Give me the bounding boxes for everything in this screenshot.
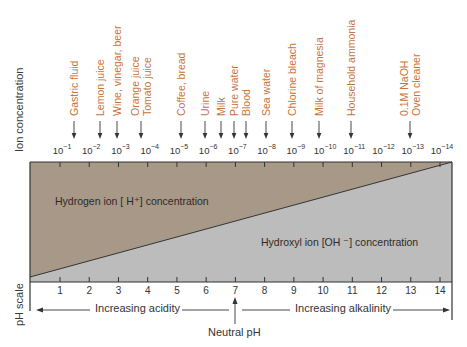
concentration-tick-label: 10−1 <box>53 143 72 156</box>
exponent: −14 <box>441 143 453 150</box>
concentration-tick-label: 10−2 <box>82 143 101 156</box>
substance-label: Wine, vinegar, beer <box>111 26 123 116</box>
ion-concentration-axis-label: Ion concentration <box>13 68 25 152</box>
ph-tick-label: 12 <box>376 285 387 296</box>
exponent: −2 <box>93 143 101 150</box>
exponent: −5 <box>180 143 188 150</box>
substance-label: Sea water <box>260 69 272 116</box>
concentration-tick-label: 10−8 <box>257 143 276 156</box>
substance-label: Gastric fluid <box>68 61 80 116</box>
exponent: −3 <box>122 143 130 150</box>
ph-tick-label: 1 <box>57 285 63 296</box>
exponent: −7 <box>239 143 247 150</box>
ph-tick-label: 5 <box>174 285 180 296</box>
substance-label-line: Gastric fluid <box>68 61 80 116</box>
concentration-tick-label: 10−12 <box>372 143 394 156</box>
increasing-alkalinity-label: Increasing alkalinity <box>293 302 393 314</box>
substance-label: Orange juiceTomato juice <box>129 56 153 116</box>
substance-label-line: Blood <box>240 89 252 116</box>
concentration-tick-label: 10−9 <box>287 143 306 156</box>
ph-tick-label: 10 <box>318 285 329 296</box>
exponent: −13 <box>412 143 424 150</box>
exponent: −6 <box>209 143 217 150</box>
substance-label: Coffee, bread <box>175 53 187 116</box>
concentration-tick-label: 10−10 <box>314 143 336 156</box>
substance-label-line: Milk <box>215 97 227 116</box>
ph-tick-label: 3 <box>116 285 122 296</box>
exponent: −12 <box>383 143 395 150</box>
substance-label-line: Chlorine bleach <box>286 43 298 116</box>
exponent: −1 <box>63 143 71 150</box>
substance-label: Pure water <box>228 65 240 116</box>
ph-tick-label: 2 <box>86 285 92 296</box>
substance-label-line: Oven cleaner <box>410 54 422 116</box>
ph-tick-label: 9 <box>291 285 297 296</box>
substance-label-line: Urine <box>199 91 211 116</box>
hydroxyl-ion-label: Hydroxyl ion [OH ⁻] concentration <box>261 236 418 248</box>
substance-label: Milk <box>215 97 227 116</box>
exponent: −11 <box>354 143 365 150</box>
hydrogen-ion-label: Hydrogen ion [ H⁺] concentration <box>55 195 209 207</box>
ph-tick-label: 13 <box>405 285 416 296</box>
ph-scale-axis-label: pH scale <box>13 283 25 326</box>
concentration-tick-label: 10−7 <box>228 143 247 156</box>
substance-label-line: Milk of magnesia <box>313 37 325 116</box>
substance-label-line: Sea water <box>260 69 272 116</box>
substance-label: Blood <box>240 89 252 116</box>
substance-label-line: Household ammonia <box>345 20 357 116</box>
exponent: −9 <box>297 143 305 150</box>
substance-label-line: Pure water <box>228 65 240 116</box>
substance-label: Milk of magnesia <box>313 37 325 116</box>
concentration-tick-label: 10−14 <box>431 143 453 156</box>
substance-label-line: 0.1M NaOH <box>398 54 410 116</box>
substance-label-line: Wine, vinegar, beer <box>111 26 123 116</box>
increasing-acidity-label: Increasing acidity <box>93 302 182 314</box>
concentration-tick-label: 10−11 <box>343 143 365 156</box>
concentration-tick-label: 10−5 <box>170 143 189 156</box>
substance-label: Chlorine bleach <box>286 43 298 116</box>
substance-label-line: Lemon juice <box>94 59 106 116</box>
exponent: −8 <box>268 143 276 150</box>
concentration-tick-label: 10−4 <box>140 143 159 156</box>
concentration-tick-label: 10−3 <box>111 143 130 156</box>
substance-label-line: Orange juice <box>129 56 141 116</box>
ph-tick-label: 11 <box>347 285 357 296</box>
ph-tick-label: 14 <box>434 285 445 296</box>
concentration-tick-label: 10−6 <box>199 143 218 156</box>
concentration-tick-label: 10−13 <box>402 143 424 156</box>
substance-label: Urine <box>199 91 211 116</box>
exponent: −4 <box>151 143 159 150</box>
ph-tick-label: 7 <box>233 285 239 296</box>
substance-label-line: Tomato juice <box>141 56 153 116</box>
substance-label: 0.1M NaOHOven cleaner <box>398 54 422 116</box>
substance-label: Lemon juice <box>94 59 106 116</box>
exponent: −10 <box>324 143 336 150</box>
neutral-ph-label: Neutral pH <box>206 326 263 338</box>
ph-tick-label: 4 <box>145 285 151 296</box>
substance-label-line: Coffee, bread <box>175 53 187 116</box>
ph-tick-label: 6 <box>203 285 209 296</box>
ph-tick-label: 8 <box>262 285 268 296</box>
substance-label: Household ammonia <box>345 20 357 116</box>
